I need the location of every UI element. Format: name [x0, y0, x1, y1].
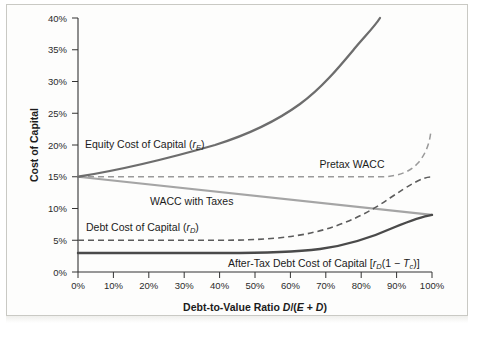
equity-cost-label-text: Equity Cost of Capital (	[85, 138, 193, 150]
y-tick-label: 10%	[48, 203, 68, 214]
series-wacc-with-taxes	[78, 177, 432, 215]
y-tick-label: 20%	[48, 140, 68, 151]
x-axis-title-main: Debt-to-Value Ratio	[183, 301, 283, 313]
x-tick-label: 30%	[175, 280, 195, 291]
after-tax-debt-label-prefix: After-Tax Debt Cost of Capital [	[228, 257, 373, 269]
x-tick-label: 10%	[104, 280, 124, 291]
x-tick-label: 20%	[139, 280, 159, 291]
x-tick-label: 40%	[210, 280, 230, 291]
y-tick-label: 40%	[48, 13, 68, 24]
x-tick-label: 80%	[352, 280, 372, 291]
debt-cost-label: Debt Cost of Capital (rD)	[86, 221, 199, 235]
x-tick-label: 60%	[281, 280, 301, 291]
after-tax-debt-label-close: )]	[413, 257, 419, 269]
after-tax-debt-label: After-Tax Debt Cost of Capital [rD(1 − T…	[228, 257, 420, 271]
equity-cost-label: Equity Cost of Capital (rE)	[85, 138, 204, 152]
y-tick-label: 15%	[48, 171, 68, 182]
y-tick-label: 30%	[48, 76, 68, 87]
y-axis-tick-labels: 40% 35% 30% 25% 20% 15% 10% 5% 0%	[48, 13, 68, 278]
x-axis-tick-labels: 0% 10% 20% 30% 40% 50% 60% 70% 80% 90% 1…	[71, 280, 445, 291]
x-axis-ticks	[78, 272, 432, 278]
cost-of-capital-chart: 40% 35% 30% 25% 20% 15% 10% 5% 0% 0%	[0, 0, 480, 339]
y-tick-label: 5%	[53, 235, 67, 246]
pretax-wacc-label: Pretax WACC	[320, 158, 385, 170]
y-tick-label: 25%	[48, 108, 68, 119]
x-axis-title-close: )	[323, 301, 327, 313]
debt-cost-label-close: )	[195, 221, 199, 233]
x-axis-title-plus: +	[304, 301, 316, 313]
x-tick-label: 0%	[71, 280, 85, 291]
equity-cost-label-close: )	[201, 138, 205, 150]
x-axis-title: Debt-to-Value Ratio D/(E + D)	[183, 301, 327, 313]
y-axis-title: Cost of Capital	[28, 108, 40, 182]
series-equity-cost	[78, 18, 380, 177]
x-tick-label: 50%	[245, 280, 265, 291]
debt-cost-label-text: Debt Cost of Capital (	[86, 221, 187, 233]
x-tick-label: 100%	[420, 280, 445, 291]
figure-root: 40% 35% 30% 25% 20% 15% 10% 5% 0% 0%	[0, 0, 480, 339]
after-tax-debt-label-mid: (1	[382, 257, 394, 269]
y-tick-label: 0%	[53, 267, 67, 278]
x-tick-label: 90%	[387, 280, 407, 291]
y-axis-ticks	[72, 18, 78, 272]
x-tick-label: 70%	[316, 280, 336, 291]
y-tick-label: 35%	[48, 44, 68, 55]
wacc-with-taxes-label: WACC with Taxes	[150, 195, 233, 207]
